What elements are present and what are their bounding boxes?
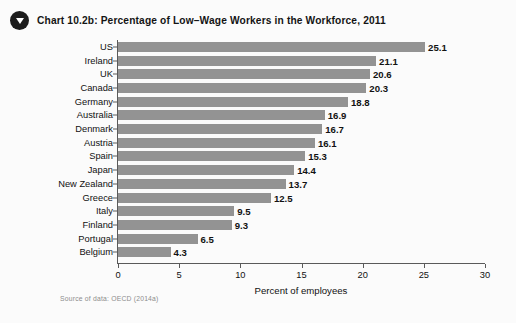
- bar-row: New Zealand13.7: [0, 177, 516, 191]
- bar-row: Italy9.5: [0, 204, 516, 218]
- category-label: Australia: [77, 110, 113, 120]
- y-axis-tick: [113, 46, 117, 47]
- bar-row: Ireland21.1: [0, 54, 516, 68]
- bar[interactable]: [118, 151, 305, 161]
- category-label: Austria: [84, 138, 113, 148]
- category-label: Germany: [75, 97, 113, 107]
- category-label: Portugal: [78, 234, 113, 244]
- bar-row: Finland9.3: [0, 218, 516, 232]
- bar-value-label: 15.3: [308, 151, 327, 162]
- chart-header: Chart 10.2b: Percentage of Low–Wage Work…: [10, 11, 386, 30]
- x-axis-tick: [363, 264, 364, 268]
- bar-value-label: 18.8: [351, 96, 370, 107]
- bar-row: Austria16.1: [0, 136, 516, 150]
- y-axis-tick: [113, 129, 117, 130]
- y-axis-tick: [113, 156, 117, 157]
- y-axis-tick: [113, 238, 117, 239]
- bar-value-label: 6.5: [201, 233, 214, 244]
- chart-plot-area: US25.1Ireland21.1UK20.6Canada20.3Germany…: [0, 36, 516, 268]
- bar[interactable]: [118, 247, 171, 257]
- bar-value-label: 9.5: [237, 206, 250, 217]
- bar[interactable]: [118, 234, 198, 244]
- x-axis-tick-label: 30: [480, 270, 490, 280]
- category-label: New Zealand: [58, 179, 113, 189]
- x-axis-tick: [302, 264, 303, 268]
- bar[interactable]: [118, 220, 232, 230]
- y-axis-tick: [113, 197, 117, 198]
- x-axis-tick-label: 5: [177, 270, 182, 280]
- bar-value-label: 9.3: [235, 219, 248, 230]
- bar-row: Canada20.3: [0, 81, 516, 95]
- x-axis-title: Percent of employees: [117, 285, 485, 296]
- bar[interactable]: [118, 179, 286, 189]
- y-axis-tick: [113, 60, 117, 61]
- x-axis-tick: [485, 264, 486, 268]
- bar-value-label: 16.7: [325, 124, 344, 135]
- x-axis-tick-label: 15: [296, 270, 306, 280]
- bar[interactable]: [118, 206, 234, 216]
- category-label: Denmark: [75, 124, 113, 134]
- triangle-down-bullet-icon: [10, 11, 29, 30]
- bar[interactable]: [118, 193, 271, 203]
- y-axis-tick: [113, 224, 117, 225]
- y-axis-tick: [113, 74, 117, 75]
- bar-row: Spain15.3: [0, 150, 516, 164]
- bar-value-label: 13.7: [289, 178, 308, 189]
- x-axis-tick: [424, 264, 425, 268]
- bar-row: UK20.6: [0, 67, 516, 81]
- bar-row: Denmark16.7: [0, 122, 516, 136]
- category-label: Belgium: [79, 247, 113, 257]
- bar[interactable]: [118, 124, 322, 134]
- x-axis-tick: [179, 264, 180, 268]
- bar[interactable]: [118, 138, 315, 148]
- category-label: Spain: [89, 151, 113, 161]
- bar-value-label: 16.9: [328, 110, 347, 121]
- x-axis-tick-label: 10: [235, 270, 245, 280]
- bar[interactable]: [118, 97, 348, 107]
- bar-row: Portugal6.5: [0, 232, 516, 246]
- bar-value-label: 14.4: [297, 165, 316, 176]
- bar-row: Greece12.5: [0, 191, 516, 205]
- y-axis-tick: [113, 87, 117, 88]
- bar[interactable]: [118, 165, 294, 175]
- source-note: Source of data: OECD (2014a): [60, 295, 159, 302]
- chart-title: Chart 10.2b: Percentage of Low–Wage Work…: [37, 15, 386, 26]
- y-axis-tick: [113, 211, 117, 212]
- x-axis-tick: [240, 264, 241, 268]
- x-axis-tick-label: 25: [419, 270, 429, 280]
- bar-row: Germany18.8: [0, 95, 516, 109]
- bar-value-label: 20.6: [373, 69, 392, 80]
- category-label: Finland: [83, 220, 114, 230]
- category-label: UK: [100, 69, 113, 79]
- bar[interactable]: [118, 110, 325, 120]
- category-label: Greece: [83, 193, 114, 203]
- category-label: Canada: [80, 83, 113, 93]
- y-axis-tick: [113, 115, 117, 116]
- bar[interactable]: [118, 69, 370, 79]
- x-axis-tick-label: 20: [357, 270, 367, 280]
- y-axis-tick: [113, 170, 117, 171]
- y-axis-tick: [113, 183, 117, 184]
- category-label: Japan: [88, 165, 113, 175]
- y-axis-tick: [113, 142, 117, 143]
- bar[interactable]: [118, 42, 425, 52]
- bar-value-label: 4.3: [174, 247, 187, 258]
- bar-row: Belgium4.3: [0, 246, 516, 260]
- x-axis-tick: [118, 264, 119, 268]
- bar-value-label: 25.1: [428, 41, 447, 52]
- bar-value-label: 21.1: [379, 55, 398, 66]
- y-axis-tick: [113, 252, 117, 253]
- bar-value-label: 20.3: [369, 82, 388, 93]
- bar-value-label: 16.1: [318, 137, 337, 148]
- category-label: Ireland: [85, 56, 113, 66]
- bar[interactable]: [118, 56, 376, 66]
- bar[interactable]: [118, 83, 366, 93]
- y-axis-tick: [113, 101, 117, 102]
- bar-row: Japan14.4: [0, 163, 516, 177]
- bar-row: Australia16.9: [0, 109, 516, 123]
- category-label: US: [100, 42, 113, 52]
- bar-value-label: 12.5: [274, 192, 293, 203]
- x-axis-tick-label: 0: [115, 270, 120, 280]
- bar-row: US25.1: [0, 40, 516, 54]
- category-label: Italy: [96, 206, 113, 216]
